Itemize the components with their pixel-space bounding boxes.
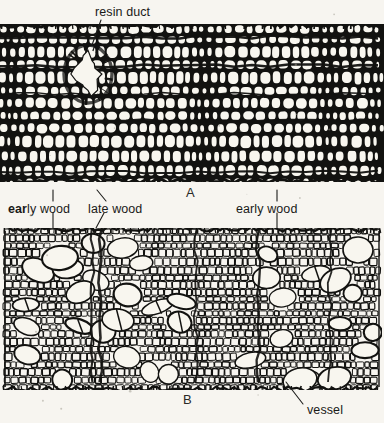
- label-early-wood-right: early wood: [236, 202, 297, 216]
- label-resin-duct: resin duct: [95, 5, 151, 19]
- label-vessel: vessel: [307, 403, 343, 417]
- panel-a-illustration: [0, 20, 384, 190]
- label-early-wood-left-bold: ear: [8, 202, 27, 216]
- panel-a-letter: A: [186, 185, 195, 200]
- label-early-wood-left: early wood: [8, 202, 70, 216]
- panel-b-letter: B: [183, 392, 192, 407]
- label-early-wood-left-rest: ly wood: [27, 202, 70, 216]
- label-late-wood: late wood: [88, 202, 142, 216]
- wood-anatomy-figure: resin duct early wood late wood early wo…: [0, 0, 384, 423]
- figure-root: resin duct early wood late wood early wo…: [0, 0, 384, 423]
